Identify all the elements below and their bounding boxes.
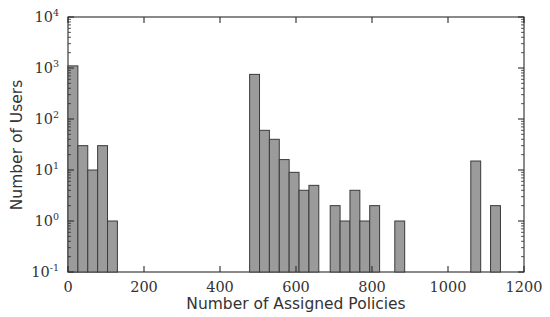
histogram-bar <box>289 172 299 272</box>
y-tick-label: 104 <box>35 7 60 25</box>
histogram-bar <box>108 221 118 272</box>
chart-svg: 020040060080010001200 10-110010110210310… <box>0 0 550 317</box>
histogram-bar <box>78 146 88 272</box>
histogram-bar <box>279 160 289 272</box>
y-tick-label: 10-1 <box>31 262 59 280</box>
y-tick-label: 101 <box>35 160 60 178</box>
x-tick-label: 200 <box>130 279 158 295</box>
x-axis-label: Number of Assigned Policies <box>186 295 405 313</box>
histogram-bar <box>309 185 319 272</box>
histogram-bar <box>330 206 340 272</box>
y-axis-label: Number of Users <box>8 80 26 210</box>
histogram-bar <box>370 206 380 272</box>
histogram-bar <box>340 221 350 272</box>
y-tick-label: 100 <box>35 211 60 229</box>
histogram-bar <box>260 130 270 272</box>
histogram-bars <box>68 66 500 272</box>
histogram-bar <box>360 221 370 272</box>
x-tick-label: 0 <box>63 279 72 295</box>
x-axis-tick-labels: 020040060080010001200 <box>63 279 542 295</box>
x-tick-label: 1000 <box>430 279 467 295</box>
histogram-bar <box>299 190 309 272</box>
x-tick-label: 800 <box>358 279 386 295</box>
y-tick-label: 102 <box>35 109 60 127</box>
y-tick-label: 103 <box>35 58 60 76</box>
histogram-figure: 020040060080010001200 10-110010110210310… <box>0 0 550 317</box>
histogram-bar <box>269 139 279 272</box>
histogram-bar <box>491 206 501 272</box>
x-tick-label: 1200 <box>506 279 543 295</box>
histogram-bar <box>88 170 98 272</box>
histogram-bar <box>395 221 405 272</box>
histogram-bar <box>350 190 360 272</box>
histogram-bar <box>250 74 260 272</box>
x-tick-label: 400 <box>206 279 234 295</box>
histogram-bar <box>471 161 481 272</box>
y-axis-tick-labels: 10-1100101102103104 <box>31 7 59 280</box>
x-tick-label: 600 <box>282 279 310 295</box>
histogram-bar <box>98 146 108 272</box>
